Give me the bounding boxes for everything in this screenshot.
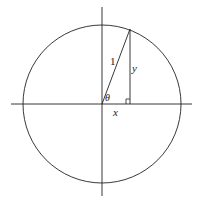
opposite-label: y (131, 62, 137, 74)
right-angle-marker (126, 99, 130, 104)
hypotenuse-label: 1 (110, 55, 116, 67)
angle-label: θ (105, 92, 110, 103)
unit-circle-diagram: 1 y x θ (0, 0, 199, 205)
adjacent-label: x (112, 106, 118, 118)
